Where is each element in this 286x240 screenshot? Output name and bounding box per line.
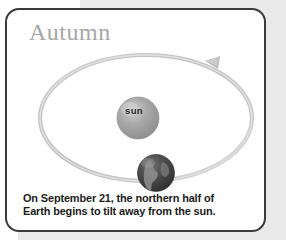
earth-body [138, 155, 175, 192]
sun-body [117, 97, 159, 139]
autumn-card: Autumn [5, 8, 266, 232]
orbit-diagram [7, 10, 263, 196]
caption-text: On September 21, the northern half of Ea… [23, 192, 242, 217]
seasons-autumn-illustration: Autumn [0, 0, 286, 240]
